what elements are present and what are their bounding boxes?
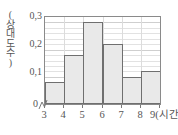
histogram-bar	[103, 44, 123, 104]
x-tick-label-8: 8	[130, 109, 150, 121]
histogram-bar	[141, 71, 161, 104]
histogram-figure: ( 상 대 도 수 ) 0,3 0,2 0,1 0 3456789(시간)	[0, 0, 178, 135]
x-tick-label-5: 5	[72, 109, 92, 121]
x-tick-label-4: 4	[53, 109, 73, 121]
x-axis-unit-label: 9(시간)	[150, 109, 178, 121]
y-tick-label-0.2: 0,2	[18, 39, 42, 49]
histogram-bar	[122, 77, 142, 104]
x-tick-mark	[63, 105, 64, 108]
x-tick-label-3: 3	[34, 109, 54, 121]
y-tick-label-0.1: 0,1	[18, 67, 42, 77]
plot-area	[44, 16, 161, 105]
x-tick-label-7: 7	[111, 109, 131, 121]
x-tick-mark	[140, 105, 141, 108]
x-tick-mark	[102, 105, 103, 108]
histogram-bar	[64, 55, 84, 104]
x-tick-mark	[82, 105, 83, 108]
x-tick-mark	[159, 105, 160, 108]
x-tick-mark	[121, 105, 122, 108]
x-tick-mark	[44, 105, 45, 108]
histogram-bar	[83, 22, 103, 104]
x-tick-label-6: 6	[92, 109, 112, 121]
x-axis-tick-labels: 3456789(시간)	[0, 105, 178, 135]
y-tick-label-0.3: 0,3	[18, 11, 42, 21]
